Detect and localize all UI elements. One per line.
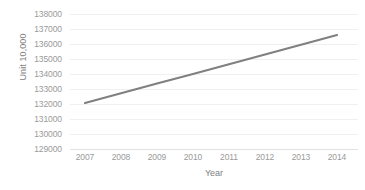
y-axis-tick-label: 132000	[34, 99, 62, 109]
y-axis-tick-label: 136000	[34, 39, 62, 49]
y-axis-tick-label: 135000	[34, 54, 62, 64]
x-axis-title: Year	[70, 168, 358, 178]
y-axis-tick-label: 138000	[34, 9, 62, 19]
x-axis-tick-label: 2014	[328, 152, 347, 162]
x-axis-tick-label: 2010	[184, 152, 203, 162]
y-axis-tick-label: 133000	[34, 84, 62, 94]
x-axis-tick-label: 2011	[220, 152, 238, 162]
x-axis-tick-label: 2012	[256, 152, 275, 162]
x-axis-tick-label: 2009	[148, 152, 167, 162]
y-axis-tick-label: 134000	[34, 69, 62, 79]
line-chart: Unit 10,000 1290001300001310001320001330…	[0, 0, 365, 190]
y-axis-tick-label: 137000	[34, 24, 62, 34]
x-axis-tick-label: 2013	[292, 152, 311, 162]
y-axis-tick-label: 130000	[34, 129, 62, 139]
plot-area	[70, 0, 358, 150]
x-axis-tick-label: 2007	[76, 152, 95, 162]
y-axis-tick-label: 131000	[34, 114, 62, 124]
x-axis-tick-labels: 20072008200920102011201220132014	[0, 152, 365, 166]
x-axis-tick-label: 2008	[112, 152, 131, 162]
series-line-unit	[85, 35, 337, 103]
series-line-layer	[70, 0, 358, 150]
